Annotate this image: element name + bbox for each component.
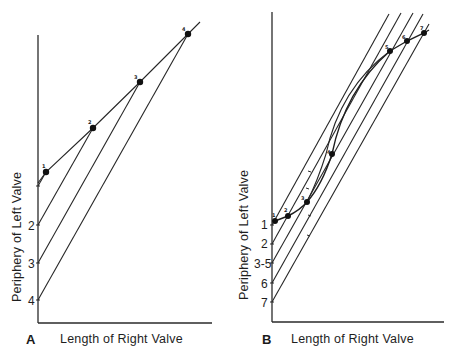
panel-a-point-label-3: 3 (134, 74, 138, 80)
panel-a-point-label-2: 2 (88, 119, 92, 125)
panel-b-point-1 (272, 218, 278, 224)
panel-b-ytick-label-3-5: 3-5 (254, 257, 272, 271)
panel-b-hash (308, 171, 311, 172)
panel-b-line-1 (272, 14, 389, 225)
panel-a-point-4 (185, 31, 191, 37)
panel-a-point-2 (90, 125, 96, 131)
panel-a-growth-line (38, 22, 200, 183)
panel-b-line-6 (272, 14, 423, 283)
panel-b-line-2 (272, 13, 401, 244)
panel-a-ray-3 (38, 82, 140, 263)
panel-a-ytick-label-3: 3 (28, 257, 35, 271)
figure-canvas: 1 2 3 4 2 3 4 Periphery of Left Valve Le… (0, 0, 452, 357)
panel-b-x-axis-title: Length of Right Valve (291, 332, 414, 346)
panel-b-point-3 (304, 199, 310, 205)
panel-b-point-label-2: 2 (284, 207, 288, 213)
panel-b-point-label-7: 7 (420, 25, 424, 31)
panel-b-letter: B (262, 332, 271, 347)
panel-a-ytick-label-4: 4 (28, 294, 35, 308)
panel-a-ytick-label-2: 2 (28, 219, 35, 233)
panel-a-point-label-1: 1 (42, 163, 46, 169)
panel-b-growth-curve (275, 30, 429, 221)
panel-a-y-axis-title: Periphery of Left Valve (10, 172, 24, 302)
panel-b-line-7 (272, 24, 429, 302)
panel-b-point-2 (285, 213, 291, 219)
panel-a-ray-4 (38, 34, 188, 300)
panel-b-ytick-label-2: 2 (261, 237, 268, 251)
panel-a-letter: A (26, 332, 36, 347)
panel-a-point-3 (137, 79, 143, 85)
panel-b-ytick-label-6: 6 (261, 277, 268, 291)
panel-b-ytick-label-7: 7 (261, 296, 268, 310)
panel-b-y-axis-title: Periphery of Left Valve (237, 170, 251, 300)
panel-a-ray-2 (38, 128, 93, 225)
panel-b-point-label-6: 6 (402, 34, 406, 40)
panel-a-point-label-4: 4 (182, 26, 186, 32)
panel-b: 1 2 3 4 5 6 7 1 2 3-5 6 7 Periphery of L… (237, 12, 444, 347)
panel-b-point-label-1: 1 (272, 212, 276, 218)
panel-b-ytick-label-1: 1 (261, 218, 268, 232)
panel-b-point-label-5: 5 (385, 44, 389, 50)
panel-a: 1 2 3 4 2 3 4 Periphery of Left Valve Le… (10, 22, 212, 347)
panel-a-x-axis-title: Length of Right Valve (60, 332, 183, 346)
panel-b-point-label-3: 3 (301, 195, 305, 201)
panel-b-point-label-4: 4 (327, 149, 331, 155)
panel-b-hash (306, 188, 309, 189)
panel-a-point-1 (43, 169, 49, 175)
